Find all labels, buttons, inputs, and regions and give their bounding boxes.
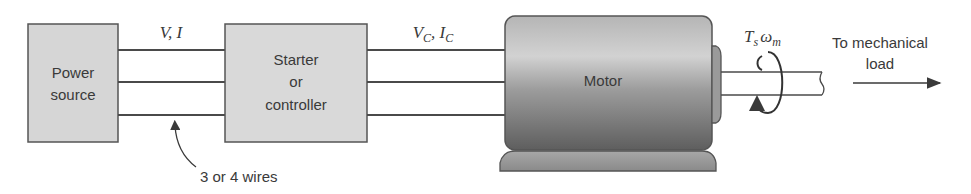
motor-label: Motor [584,72,622,89]
input-signal-label: V, I [160,23,184,42]
motor-shaft [721,72,824,95]
motor-base [500,151,716,171]
controlled-signal-label: VC, IC [413,23,455,45]
input-wires [118,50,225,115]
load-label-2: load [866,55,894,72]
starter-label-1: Starter [273,51,318,68]
power-source-block: Power source [28,24,118,142]
power-source-label-2: source [50,86,95,103]
motor-system-diagram: Power source V, I 3 or 4 wires Starter o… [0,0,971,194]
controlled-wires [367,50,505,115]
torque-speed-label: Tsωm [744,27,781,49]
starter-label-3: controller [265,96,327,113]
rotation-arrow-icon [757,52,782,113]
wires-pointer-arrow [175,125,196,167]
starter-label-2: or [289,73,302,90]
power-source-label-1: Power [52,64,95,81]
load-label-1: To mechanical [832,34,928,51]
motor-block: Motor [500,16,721,171]
wires-count-label: 3 or 4 wires [200,168,278,185]
starter-controller-block: Starter or controller [225,24,367,142]
motor-end-cap [712,46,721,123]
